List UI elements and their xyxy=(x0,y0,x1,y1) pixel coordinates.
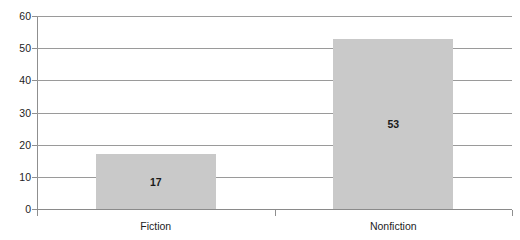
bar-value-label-nonfiction: 53 xyxy=(333,119,453,130)
bar-chart: 0102030405060 1753 FictionNonfiction xyxy=(0,0,520,240)
x-category-label-nonfiction: Nonfiction xyxy=(370,221,417,232)
bar-nonfiction: 53 xyxy=(333,39,453,209)
x-tick-mark-2 xyxy=(512,210,513,216)
y-tick-label-0: 0 xyxy=(5,204,31,215)
x-category-label-fiction: Fiction xyxy=(140,221,171,232)
y-tick-label-50: 50 xyxy=(5,43,31,54)
y-axis-tick-labels: 0102030405060 xyxy=(0,0,31,240)
y-tick-label-10: 10 xyxy=(5,172,31,183)
x-tick-mark-1 xyxy=(275,210,276,216)
gridline-60 xyxy=(37,16,512,17)
y-tick-label-20: 20 xyxy=(5,139,31,150)
plot-area: 1753 xyxy=(37,16,512,209)
y-tick-label-60: 60 xyxy=(5,11,31,22)
bar-fiction: 17 xyxy=(96,154,216,209)
x-tick-mark-0 xyxy=(37,210,38,216)
y-tick-label-40: 40 xyxy=(5,75,31,86)
bar-value-label-fiction: 17 xyxy=(96,177,216,188)
y-tick-label-30: 30 xyxy=(5,107,31,118)
